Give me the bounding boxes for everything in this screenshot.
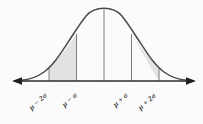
- left-arrowhead: [12, 77, 22, 85]
- right-arrowhead: [186, 77, 196, 85]
- normal-distribution-figure: μ − 2σ μ − σ μ + σ μ + 2σ: [0, 0, 203, 124]
- right-shaded-band: [132, 34, 160, 81]
- left-shaded-band: [49, 34, 77, 81]
